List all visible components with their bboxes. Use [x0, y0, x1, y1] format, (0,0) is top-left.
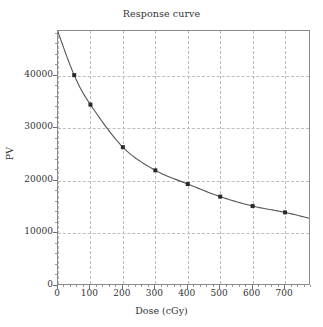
x-axis-ticks: 0100200300400500600700 — [0, 288, 323, 304]
x-tick-minor — [278, 285, 279, 287]
response-curve-plot — [58, 31, 310, 285]
data-point-marker — [153, 168, 157, 172]
x-tick-minor — [291, 285, 292, 287]
x-tick-minor — [70, 285, 71, 287]
x-axis-label: Dose (cGy) — [0, 305, 323, 316]
plot-area — [57, 30, 310, 285]
x-tick-minor — [109, 285, 110, 287]
x-tick-minor — [96, 285, 97, 287]
x-tick-minor — [239, 285, 240, 287]
data-point-marker — [121, 145, 125, 149]
x-tick-minor — [297, 285, 298, 287]
y-tick-minor — [55, 264, 57, 265]
x-tick-minor — [83, 285, 84, 287]
x-tick-mark — [122, 285, 123, 289]
x-tick-mark — [89, 285, 90, 289]
y-tick-minor — [55, 148, 57, 149]
x-tick-mark — [57, 285, 58, 289]
data-point-marker — [251, 204, 255, 208]
y-tick-minor — [55, 211, 57, 212]
y-tick-minor — [55, 64, 57, 65]
x-tick-minor — [174, 285, 175, 287]
y-tick-minor — [55, 33, 57, 34]
x-tick-minor — [148, 285, 149, 287]
x-tick-minor — [180, 285, 181, 287]
data-point-marker — [283, 210, 287, 214]
y-axis-label: PV — [4, 134, 15, 174]
y-tick-minor — [55, 54, 57, 55]
y-tick-minor — [55, 85, 57, 86]
y-tick-mark — [53, 180, 57, 181]
x-tick-minor — [167, 285, 168, 287]
x-tick-mark — [252, 285, 253, 289]
x-tick-minor — [258, 285, 259, 287]
y-tick-minor — [55, 274, 57, 275]
x-tick-minor — [232, 285, 233, 287]
data-point-marker — [88, 103, 92, 107]
x-tick-minor — [161, 285, 162, 287]
y-tick-minor — [55, 117, 57, 118]
x-tick-minor — [63, 285, 64, 287]
x-tick-mark — [219, 285, 220, 289]
y-tick-minor — [55, 106, 57, 107]
data-point-markers — [72, 73, 287, 214]
x-tick-minor — [226, 285, 227, 287]
response-curve-line — [58, 32, 310, 219]
x-tick-minor — [141, 285, 142, 287]
x-tick-minor — [115, 285, 116, 287]
y-tick-mark — [53, 232, 57, 233]
y-tick-minor — [55, 159, 57, 160]
x-tick-minor — [193, 285, 194, 287]
data-point-marker — [186, 182, 190, 186]
data-point-marker — [218, 195, 222, 199]
data-point-marker — [72, 73, 76, 77]
x-tick-minor — [310, 285, 311, 287]
chart-figure: Response curve 010000200003000040000 010… — [0, 0, 323, 327]
x-tick-minor — [245, 285, 246, 287]
x-tick-minor — [304, 285, 305, 287]
y-tick-label: 20000 — [24, 174, 53, 184]
x-tick-minor — [102, 285, 103, 287]
x-tick-mark — [187, 285, 188, 289]
y-tick-minor — [55, 138, 57, 139]
y-tick-mark — [53, 75, 57, 76]
y-tick-minor — [55, 190, 57, 191]
y-tick-minor — [55, 253, 57, 254]
x-tick-mark — [284, 285, 285, 289]
y-tick-minor — [55, 243, 57, 244]
x-tick-minor — [271, 285, 272, 287]
y-tick-label: 40000 — [24, 69, 53, 79]
y-tick-minor — [55, 201, 57, 202]
x-tick-minor — [76, 285, 77, 287]
y-tick-minor — [55, 96, 57, 97]
y-tick-minor — [55, 169, 57, 170]
x-tick-mark — [154, 285, 155, 289]
x-tick-minor — [135, 285, 136, 287]
x-tick-minor — [206, 285, 207, 287]
y-tick-label: 10000 — [24, 226, 53, 236]
x-tick-minor — [265, 285, 266, 287]
x-tick-minor — [200, 285, 201, 287]
x-tick-minor — [128, 285, 129, 287]
y-tick-minor — [55, 43, 57, 44]
x-tick-minor — [213, 285, 214, 287]
y-tick-minor — [55, 222, 57, 223]
x-tick-label: 700 — [264, 288, 304, 298]
y-tick-mark — [53, 127, 57, 128]
y-tick-label: 30000 — [24, 121, 53, 131]
